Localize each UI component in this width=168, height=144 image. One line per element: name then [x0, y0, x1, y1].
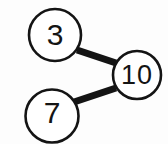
- number-bond-diagram: 3 7 10: [0, 0, 168, 144]
- node-label-part1: 3: [28, 8, 82, 62]
- node-label-part2: 7: [25, 89, 79, 143]
- node-label-total: 10: [112, 50, 162, 100]
- connector-part2-total: [74, 88, 116, 102]
- connector-part1-total: [77, 50, 116, 63]
